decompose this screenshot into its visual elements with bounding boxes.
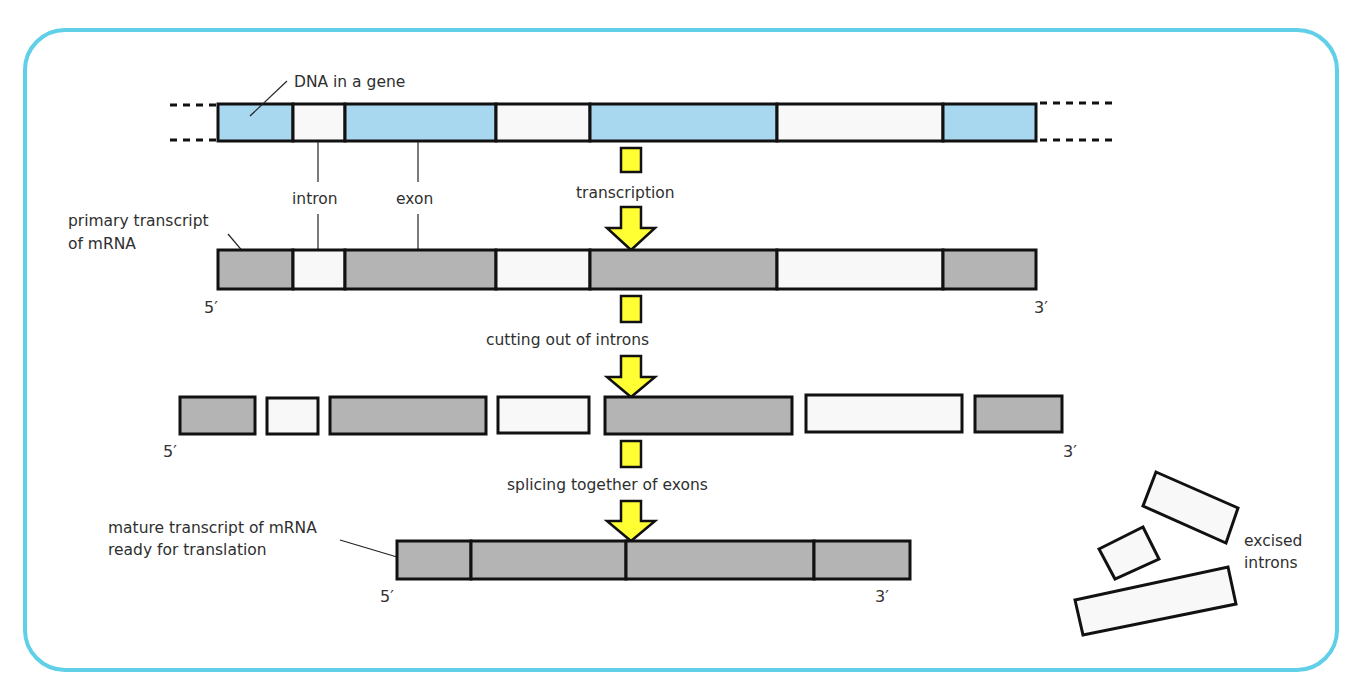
mature-exon-3 — [626, 541, 814, 579]
mature-transcript-label-1: mature transcript of mRNA — [108, 519, 317, 537]
rna-exon-2 — [345, 250, 496, 289]
rna-exon-4 — [943, 250, 1036, 289]
intron-label: intron — [292, 190, 338, 208]
excised-label-1: excised — [1244, 532, 1302, 550]
mature-exon-1 — [397, 541, 471, 579]
cut-intron-1 — [267, 398, 318, 434]
cut-exon-2 — [330, 397, 486, 434]
exon-label: exon — [396, 190, 433, 208]
dna-gene-bar — [170, 103, 1112, 141]
rna-exon-3 — [590, 250, 777, 289]
cut-5prime-label: 5′ — [163, 442, 177, 461]
mature-transcript-bar — [397, 541, 910, 579]
primary-transcript-label-2: of mRNA — [68, 235, 136, 253]
transcription-label: transcription — [576, 184, 675, 202]
cut-exon-1 — [180, 397, 255, 434]
dna-intron-2 — [496, 104, 590, 141]
rna-intron-3 — [777, 250, 943, 289]
excised-intron-small — [1099, 527, 1159, 579]
splicing-diagram: DNA in a gene intron exon transcription … — [0, 0, 1366, 697]
dna-gene-label: DNA in a gene — [294, 73, 405, 91]
mature-5prime-label: 5′ — [380, 587, 394, 606]
cut-exon-3 — [605, 397, 792, 434]
rna-exon-1 — [218, 250, 293, 289]
dna-exon-4 — [943, 104, 1036, 141]
dna-intron-3 — [777, 104, 943, 141]
primary-3prime-label: 3′ — [1034, 298, 1048, 317]
mature-3prime-label: 3′ — [875, 587, 889, 606]
excised-introns — [1075, 472, 1238, 635]
excised-intron-large — [1143, 472, 1238, 543]
splicing-label: splicing together of exons — [507, 476, 708, 494]
dna-exon-3 — [590, 104, 777, 141]
excised-label-2: introns — [1244, 554, 1298, 572]
dna-exon-2 — [345, 104, 496, 141]
cut-intron-3 — [806, 395, 962, 432]
rna-intron-1 — [293, 250, 345, 289]
cut-segments-row — [180, 395, 1062, 434]
primary-transcript-label-1: primary transcript — [68, 212, 209, 230]
mature-leader-line — [340, 540, 397, 557]
primary-transcript-bar — [218, 250, 1036, 289]
mature-exon-2 — [471, 541, 626, 579]
primary-5prime-label: 5′ — [204, 298, 218, 317]
cutting-label: cutting out of introns — [486, 331, 649, 349]
dna-exon-1 — [218, 104, 293, 141]
dna-intron-1 — [293, 104, 345, 141]
mature-exon-4 — [814, 541, 910, 579]
excised-intron-long — [1075, 567, 1236, 635]
mature-transcript-label-2: ready for translation — [108, 541, 267, 559]
rna-intron-2 — [496, 250, 590, 289]
cut-exon-4 — [975, 396, 1062, 432]
cut-3prime-label: 3′ — [1063, 442, 1077, 461]
cut-intron-2 — [498, 397, 589, 433]
